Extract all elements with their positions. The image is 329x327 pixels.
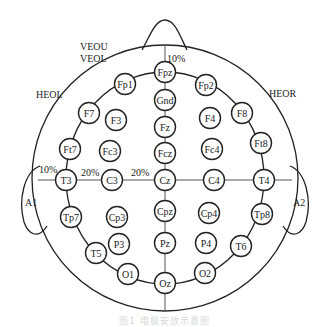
electrode-label: Tp7 <box>63 212 79 223</box>
electrode-label: Ft8 <box>254 138 267 149</box>
eeg-electrode-diagram: VEOU VEOL HEOL HEOR A1 A2 10% 10% 20% 20… <box>0 0 329 327</box>
electrode-label: T5 <box>90 248 101 259</box>
electrode-label: P3 <box>114 239 125 250</box>
electrode-label: Fc4 <box>205 144 220 155</box>
electrode-label: T6 <box>235 241 246 252</box>
label-pct-left: 10% <box>39 164 57 175</box>
electrode-label: O2 <box>199 268 211 279</box>
electrode-label: Cp4 <box>201 208 218 219</box>
electrode-f3: F3 <box>106 110 127 131</box>
electrode-label: T4 <box>258 175 269 186</box>
electrode-t4: T4 <box>254 170 275 191</box>
electrode-label: Gnd <box>156 95 173 106</box>
label-a2: A2 <box>293 197 305 208</box>
label-a1: A1 <box>25 197 37 208</box>
electrode-t6: T6 <box>231 236 252 257</box>
electrode-cp4: Cp4 <box>199 203 220 224</box>
electrode-f7: F7 <box>79 103 100 124</box>
electrode-label: Fz <box>160 122 171 133</box>
electrode-label: Cpz <box>157 206 174 217</box>
electrode-label: Tp8 <box>254 209 270 220</box>
electrode-label: C4 <box>208 175 220 186</box>
label-heor: HEOR <box>269 88 297 99</box>
electrode-oz: Oz <box>155 273 176 294</box>
electrode-label: Cz <box>159 175 171 186</box>
electrode-label: Fp1 <box>117 79 133 90</box>
electrode-label: Ft7 <box>63 144 76 155</box>
electrode-cz: Cz <box>155 170 176 191</box>
electrode-t5: T5 <box>86 243 107 264</box>
electrode-label: Cp3 <box>109 212 126 223</box>
electrode-c4: C4 <box>204 170 225 191</box>
electrode-c3: C3 <box>102 170 123 191</box>
label-heol: HEOL <box>36 89 63 100</box>
electrode-fc3: Fc3 <box>100 141 121 162</box>
electrode-tp7: Tp7 <box>61 207 82 228</box>
label-pct-c3-cz: 20% <box>131 167 149 178</box>
electrode-label: Fcz <box>158 148 173 159</box>
electrode-label: F3 <box>111 115 122 126</box>
electrode-fp1: Fp1 <box>115 74 136 95</box>
electrode-label: O1 <box>122 269 134 280</box>
label-veol: VEOL <box>80 53 107 64</box>
electrode-ft7: Ft7 <box>60 139 81 160</box>
label-veou: VEOU <box>80 41 109 52</box>
electrode-cpz: Cpz <box>155 201 176 222</box>
electrode-label: Fp2 <box>198 80 214 91</box>
electrode-p4: P4 <box>196 233 217 254</box>
electrode-label: Pz <box>160 238 171 249</box>
electrode-fp2: Fp2 <box>196 75 217 96</box>
electrode-cp3: Cp3 <box>107 207 128 228</box>
electrode-fc4: Fc4 <box>202 139 223 160</box>
electrode-label: P4 <box>201 238 212 249</box>
electrode-label: Fpz <box>158 67 174 78</box>
electrode-p3: P3 <box>109 234 130 255</box>
electrode-label: F4 <box>205 113 216 124</box>
electrode-label: T3 <box>60 175 71 186</box>
electrode-o1: O1 <box>118 264 139 285</box>
electrode-tp8: Tp8 <box>252 204 273 225</box>
electrode-ft8: Ft8 <box>251 133 272 154</box>
electrode-fcz: Fcz <box>155 143 176 164</box>
electrode-label: F8 <box>237 108 248 119</box>
electrode-pz: Pz <box>155 233 176 254</box>
electrode-label: F7 <box>84 108 95 119</box>
electrode-gnd: Gnd <box>155 90 176 111</box>
electrode-t3: T3 <box>56 170 77 191</box>
electrode-label: Oz <box>159 278 171 289</box>
electrode-f8: F8 <box>232 103 253 124</box>
electrode-fpz: Fpz <box>155 62 176 83</box>
electrode-label: C3 <box>106 175 118 186</box>
electrode-label: Fc3 <box>103 146 118 157</box>
electrode-o2: O2 <box>195 263 216 284</box>
figure-caption: 图1 电极安放示意图 <box>0 314 329 327</box>
label-pct-t3-c3: 20% <box>81 167 99 178</box>
electrode-f4: F4 <box>200 108 221 129</box>
electrode-fz: Fz <box>155 117 176 138</box>
